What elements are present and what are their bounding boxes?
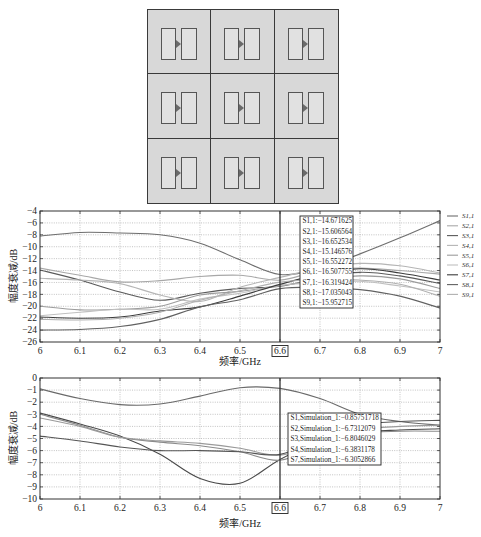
x-tick-label: 6.6: [274, 503, 286, 513]
x-tick-label: 6.2: [114, 503, 126, 513]
data-tip-line: S4,Simulation_1:−6.3831178: [291, 446, 376, 454]
y-axis-label: 幅度衰减/dB: [7, 410, 19, 465]
y-tick-label: −9: [27, 482, 37, 492]
data-tip-line: S3,Simulation_1:−6.8046029: [291, 435, 376, 443]
y-tick-label: −3: [27, 410, 37, 420]
x-tick-label: 6.9: [394, 503, 406, 513]
x-tick-label: 6.3: [154, 503, 166, 513]
x-tick-label: 6.5: [234, 503, 246, 513]
x-tick-label: 6.7: [314, 503, 326, 513]
data-tip-line: S2,Simulation_1:−6.7312079: [291, 425, 376, 433]
data-tip-line: S7,Simulation_1:−6.3052866: [291, 456, 376, 464]
data-tip: S1,Simulation_1:−0.85751718S2,Simulation…: [288, 413, 381, 465]
y-tick-label: −8: [27, 470, 37, 480]
y-tick-label: −6: [27, 446, 37, 456]
y-tick-label: −10: [22, 494, 37, 504]
x-tick-label: 6.4: [194, 503, 206, 513]
y-tick-label: −2: [27, 397, 37, 407]
data-tip-line: S1,Simulation_1:−0.85751718: [291, 414, 380, 422]
x-axis-label: 频率/GHz: [219, 517, 261, 529]
x-tick-label: 6.8: [354, 503, 366, 513]
y-tick-label: −7: [27, 458, 37, 468]
x-tick-label: 7: [438, 503, 443, 513]
y-tick-label: −5: [27, 434, 37, 444]
y-tick-label: −4: [27, 422, 37, 432]
y-tick-label: 0: [32, 373, 37, 383]
y-tick-label: −1: [27, 385, 37, 395]
x-tick-label: 6: [38, 503, 43, 513]
x-tick-label: 6.1: [74, 503, 86, 513]
s-parameter-chart-bottom: 幅度衰减/dB 频率/GHz 66.16.26.36.46.56.66.76.8…: [0, 0, 481, 537]
